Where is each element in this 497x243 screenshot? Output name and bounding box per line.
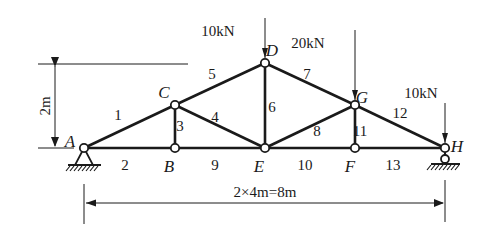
member-label-3: 3 [176, 118, 184, 134]
joint-E [261, 144, 269, 152]
ground-hatch [455, 165, 459, 170]
member-label-4: 4 [211, 109, 219, 125]
member-label-5: 5 [208, 66, 216, 82]
ground-hatch [443, 165, 447, 170]
load-label-H: 10kN [404, 85, 438, 101]
arrow-down-icon [442, 133, 448, 143]
member-label-8: 8 [313, 123, 321, 139]
ground-hatch [86, 166, 90, 171]
ground-hatch [451, 165, 455, 170]
ground-hatch [431, 165, 435, 170]
ground-hatch [439, 165, 443, 170]
member-label-12: 12 [393, 105, 408, 121]
ground-hatch [66, 166, 70, 171]
joint-A [80, 144, 88, 152]
joint-label-E: E [253, 157, 265, 176]
ground-hatch [447, 165, 451, 170]
joint-H [441, 144, 449, 152]
ground-hatch [94, 166, 98, 171]
joint-label-D: D [265, 41, 279, 60]
ground-hatch [427, 165, 431, 170]
joint-C [171, 101, 179, 109]
span-dimension: 2×4m=8m [84, 180, 445, 224]
member-8 [265, 105, 355, 148]
member-1 [84, 105, 175, 148]
member-label-1: 1 [114, 107, 122, 123]
ground-hatch [435, 165, 439, 170]
joint-label-F: F [344, 157, 356, 176]
ground-hatch [74, 166, 78, 171]
joint-label-C: C [158, 83, 170, 102]
joint-label-H: H [450, 137, 465, 156]
ground-hatch [78, 166, 82, 171]
joint-label-A: A [64, 132, 76, 151]
member-label-2: 2 [121, 157, 129, 173]
ground-hatch [82, 166, 86, 171]
truss-diagram: 2m 2×4m=8m 12345678910111213ABCDEFGH10kN… [0, 0, 497, 243]
joint-B [171, 144, 179, 152]
member-5 [175, 63, 265, 105]
member-label-13: 13 [386, 157, 401, 173]
member-4 [175, 105, 265, 148]
ground-hatch [70, 166, 74, 171]
load-label-D: 10kN [201, 23, 235, 39]
span-dim-left-arrowhead [86, 200, 96, 207]
member-label-11: 11 [353, 123, 367, 139]
member-label-9: 9 [211, 157, 219, 173]
joint-F [351, 144, 359, 152]
member-label-10: 10 [298, 157, 313, 173]
roller-circle-icon [441, 155, 449, 163]
joint-D [261, 59, 269, 67]
member-label-7: 7 [303, 66, 311, 82]
height-dim-label: 2m [37, 96, 53, 116]
span-dim-label: 2×4m=8m [234, 184, 297, 200]
load-label-G: 20kN [291, 35, 325, 51]
members-layer [84, 63, 445, 148]
member-label-6: 6 [268, 99, 276, 115]
joint-label-B: B [164, 157, 175, 176]
truss-drawing: 2m 2×4m=8m 12345678910111213ABCDEFGH10kN… [0, 0, 497, 243]
ground-hatch [90, 166, 94, 171]
joint-label-G: G [356, 88, 368, 107]
